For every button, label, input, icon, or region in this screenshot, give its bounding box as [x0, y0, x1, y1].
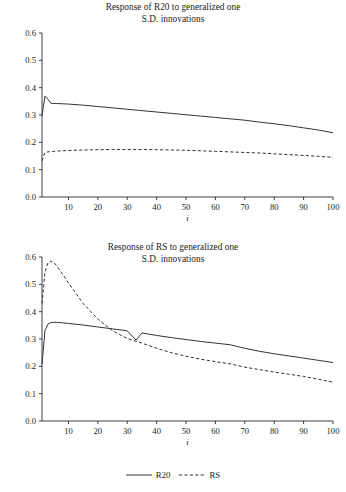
x-tick-label: 50	[182, 426, 191, 436]
x-tick-label: 40	[152, 202, 161, 212]
y-tick-label: 0.1	[25, 389, 36, 399]
legend-swatch-dashed-icon	[179, 471, 205, 479]
chart-legend: R20 RS	[0, 470, 346, 480]
x-axis-label-r20: i	[186, 213, 189, 223]
x-tick-label: 50	[182, 202, 191, 212]
y-tick-label: 0.4	[25, 83, 36, 93]
x-tick-label: 20	[94, 426, 103, 436]
series-line-rs-solid	[42, 322, 333, 364]
y-tick-label: 0.3	[25, 334, 36, 344]
y-tick-label: 0.6	[25, 252, 36, 262]
chart-plot-r20: 0.00.10.20.30.40.50.6 102030405060708090…	[0, 0, 346, 236]
x-tick-label: 70	[241, 202, 250, 212]
x-tick-label: 10	[64, 202, 73, 212]
y-tick-label: 0.0	[25, 416, 36, 426]
x-tick-label: 100	[327, 426, 340, 436]
legend-swatch-solid-icon	[126, 471, 152, 479]
y-tick-label: 0.0	[25, 192, 36, 202]
y-tick-labels-r20: 0.00.10.20.30.40.50.6	[25, 28, 36, 202]
y-tick-label: 0.6	[25, 28, 36, 38]
tick-marks-rs	[39, 257, 333, 424]
x-tick-label: 80	[270, 202, 279, 212]
impulse-response-figure: Response of R20 to generalized one S.D. …	[0, 0, 346, 492]
x-tick-label: 40	[152, 426, 161, 436]
y-tick-label: 0.1	[25, 165, 36, 175]
legend-entry-rs: RS	[179, 470, 220, 480]
y-tick-label: 0.4	[25, 307, 36, 317]
legend-label-rs: RS	[209, 470, 220, 480]
series-line-rs-dashed	[42, 261, 333, 382]
x-tick-label: 60	[211, 426, 220, 436]
y-tick-label: 0.2	[25, 361, 36, 371]
x-tick-label: 90	[299, 202, 308, 212]
tick-marks-r20	[39, 33, 333, 200]
series-line-r20-dashed	[42, 149, 333, 160]
chart-panel-rs: Response of RS to generalized one S.D. i…	[0, 240, 346, 466]
x-axis-label-rs: i	[186, 437, 189, 447]
x-tick-labels-rs: 102030405060708090100	[64, 426, 339, 436]
y-tick-labels-rs: 0.00.10.20.30.40.50.6	[25, 252, 36, 426]
x-tick-label: 60	[211, 202, 220, 212]
x-tick-label: 20	[94, 202, 103, 212]
y-tick-label: 0.3	[25, 110, 36, 120]
y-tick-label: 0.5	[25, 279, 36, 289]
chart-plot-rs: 0.00.10.20.30.40.50.6 102030405060708090…	[0, 240, 346, 466]
x-tick-labels-r20: 102030405060708090100	[64, 202, 339, 212]
legend-label-r20: R20	[156, 470, 171, 480]
y-tick-label: 0.5	[25, 55, 36, 65]
x-tick-label: 70	[241, 426, 250, 436]
x-tick-label: 90	[299, 426, 308, 436]
axes-rs	[42, 257, 333, 421]
x-tick-label: 30	[123, 426, 132, 436]
y-tick-label: 0.2	[25, 137, 36, 147]
x-tick-label: 30	[123, 202, 132, 212]
x-tick-label: 80	[270, 426, 279, 436]
legend-entry-r20: R20	[126, 470, 171, 480]
chart-panel-r20: Response of R20 to generalized one S.D. …	[0, 0, 346, 236]
x-tick-label: 10	[64, 426, 73, 436]
series-line-r20-solid	[42, 96, 333, 133]
x-tick-label: 100	[327, 202, 340, 212]
